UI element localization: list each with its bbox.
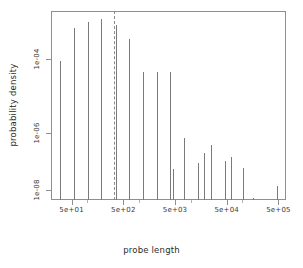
spike-bar (74, 28, 75, 200)
y-tick-label: 1e-06 (33, 122, 41, 143)
plot-panel-frame (51, 11, 286, 200)
spike-bar (129, 39, 130, 200)
x-tick-label: 5e+05 (266, 206, 291, 214)
spike-bar (198, 163, 199, 200)
spike-bar (277, 186, 278, 200)
x-tick-label: 5e+04 (214, 206, 239, 214)
spike-bar (204, 153, 205, 200)
x-tick-major (123, 200, 124, 205)
x-tick-major (227, 200, 228, 205)
spike-bar (231, 157, 232, 200)
x-axis-title: probe length (0, 245, 303, 255)
spike-bar (225, 161, 226, 200)
y-axis-title: probability density (8, 63, 18, 146)
x-tick-label: 5e+02 (111, 206, 136, 214)
threshold-dashed-line (114, 11, 115, 200)
y-tick-major (46, 133, 51, 134)
plot-root: 5e+015e+025e+035e+045e+05 1e-041e-061e-0… (0, 0, 303, 268)
spike-bar (170, 72, 171, 200)
x-tick-major (175, 200, 176, 205)
spike-bar (243, 168, 244, 200)
x-tick-minor (139, 200, 140, 203)
spike-bar (101, 19, 102, 200)
spike-bar (184, 138, 185, 200)
x-tick-minor (87, 200, 88, 203)
x-tick-minor (191, 200, 192, 203)
spike-bar (173, 169, 174, 200)
spike-bar (253, 198, 254, 200)
spike-bar (88, 22, 89, 200)
x-tick-major (278, 200, 279, 205)
y-tick-label: 1e-08 (33, 179, 41, 200)
spike-bar (211, 145, 212, 200)
spike-bar (60, 61, 61, 200)
x-tick-minor (242, 200, 243, 203)
spike-bar (116, 25, 117, 200)
y-tick-major (46, 190, 51, 191)
spike-bar (143, 72, 144, 200)
x-tick-major (72, 200, 73, 205)
y-tick-major (46, 59, 51, 60)
spike-bar (157, 72, 158, 200)
y-tick-label: 1e-04 (33, 48, 41, 69)
x-tick-label: 5e+01 (59, 206, 84, 214)
x-tick-label: 5e+03 (163, 206, 188, 214)
